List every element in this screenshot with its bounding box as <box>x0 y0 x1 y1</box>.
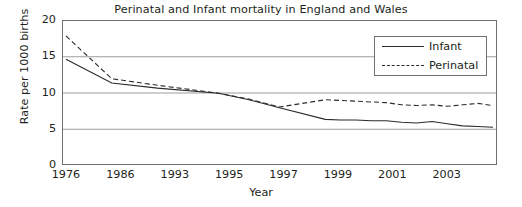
x-tick-label: 1999 <box>316 168 360 181</box>
y-tick-label: 15 <box>30 49 56 62</box>
legend-item-perinatal[interactable]: Perinatal <box>375 56 486 75</box>
chart-title: Perinatal and Infant mortality in Englan… <box>0 3 522 16</box>
x-tick-label: 1993 <box>153 168 197 181</box>
x-axis-label: Year <box>0 186 522 199</box>
legend[interactable]: Infant Perinatal <box>374 36 487 76</box>
y-tick-label: 10 <box>30 86 56 99</box>
x-tick-label: 1997 <box>262 168 306 181</box>
y-tick-label: 20 <box>30 13 56 26</box>
legend-swatch-solid-icon <box>382 46 424 47</box>
x-tick-label: 1986 <box>98 168 142 181</box>
x-tick-label: 1976 <box>44 168 88 181</box>
legend-item-infant[interactable]: Infant <box>375 37 486 56</box>
y-tick-label: 5 <box>30 122 56 135</box>
legend-label-infant: Infant <box>429 37 462 56</box>
x-tick-label: 1995 <box>207 168 251 181</box>
x-tick-label: 2001 <box>370 168 414 181</box>
legend-swatch-dashed-icon <box>382 65 424 67</box>
legend-label-perinatal: Perinatal <box>429 56 478 75</box>
chart-container: Perinatal and Infant mortality in Englan… <box>0 0 522 207</box>
x-tick-label: 2003 <box>425 168 469 181</box>
y-axis-label: Rate per 1000 births <box>18 0 31 137</box>
